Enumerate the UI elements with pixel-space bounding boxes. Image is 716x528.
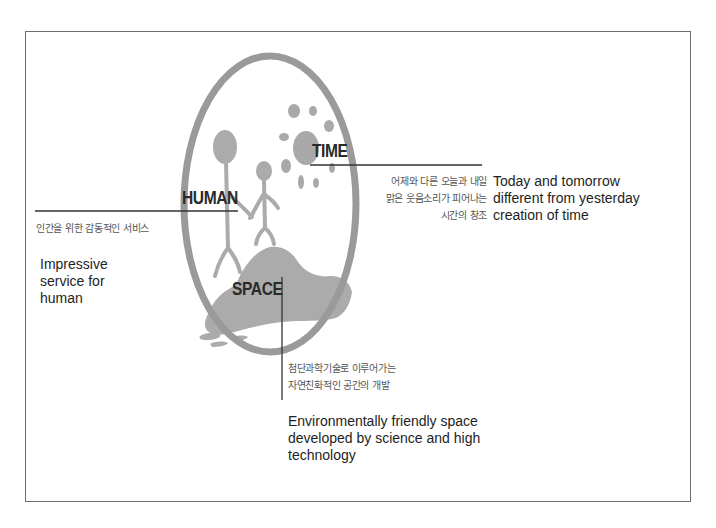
space-korean-text: 첨단과학기술로 이루어가는 자연친화적인 공간의 개발 xyxy=(288,360,395,394)
human-label: HUMAN xyxy=(182,187,238,209)
space-english-line: developed by science and high xyxy=(288,430,480,447)
human-english-text: Impressive service for human xyxy=(40,256,108,307)
human-korean-text: 인간을 위한 감동적인 서비스 xyxy=(36,220,149,237)
space-english-line: Environmentally friendly space xyxy=(288,413,480,430)
human-english-line: Impressive xyxy=(40,256,108,273)
space-korean-line: 자연친화적인 공간의 개발 xyxy=(288,377,395,394)
time-korean-text: 어제와 다른 오늘과 내일 맑은 웃음소리가 피어나는 시간의 창조 xyxy=(360,173,487,224)
space-korean-line: 첨단과학기술로 이루어가는 xyxy=(288,360,395,377)
space-english-text: Environmentally friendly space developed… xyxy=(288,413,480,464)
time-english-line: creation of time xyxy=(493,207,640,224)
space-english-line: technology xyxy=(288,447,480,464)
time-korean-line: 맑은 웃음소리가 피어나는 xyxy=(360,190,487,207)
time-english-text: Today and tomorrow different from yester… xyxy=(493,173,640,224)
human-korean-line: 인간을 위한 감동적인 서비스 xyxy=(36,220,149,237)
space-label: SPACE xyxy=(232,278,282,300)
time-label: TIME xyxy=(312,140,348,162)
human-english-line: service for xyxy=(40,273,108,290)
time-korean-line: 시간의 창조 xyxy=(360,207,487,224)
human-english-line: human xyxy=(40,290,108,307)
time-english-line: different from yesterday xyxy=(493,190,640,207)
time-korean-line: 어제와 다른 오늘과 내일 xyxy=(360,173,487,190)
time-english-line: Today and tomorrow xyxy=(493,173,640,190)
